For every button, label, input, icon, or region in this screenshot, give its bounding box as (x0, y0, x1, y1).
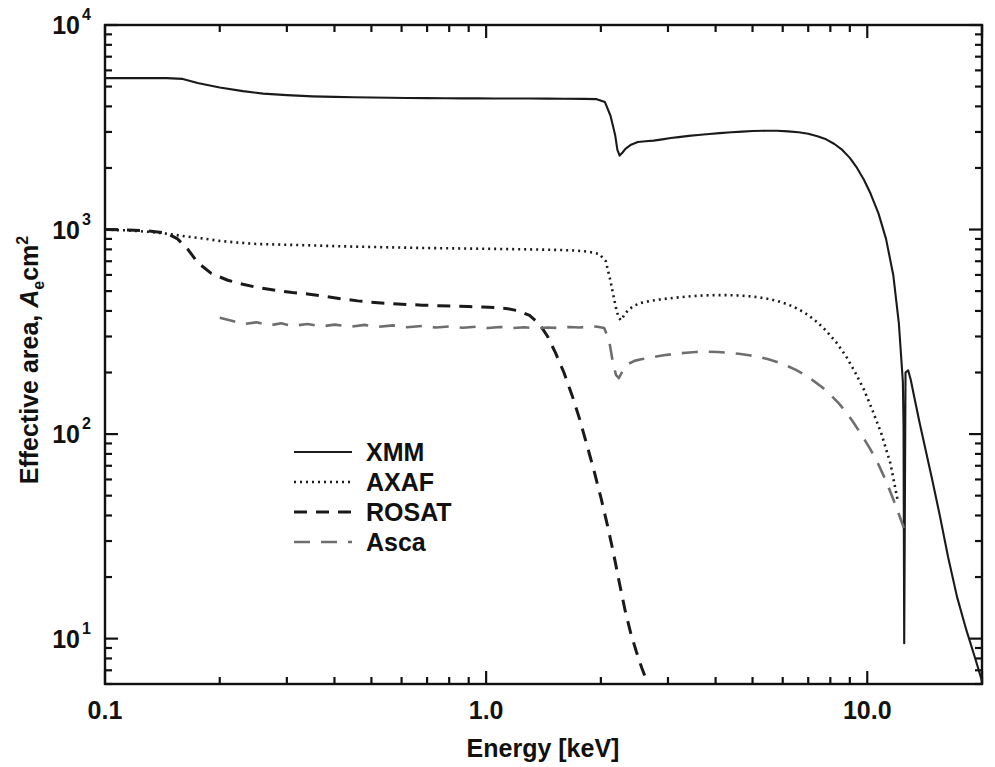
legend-label: Asca (366, 528, 427, 556)
legend-label: ROSAT (366, 498, 452, 526)
svg-text:10: 10 (52, 625, 80, 653)
svg-text:10: 10 (52, 420, 80, 448)
svg-text:10: 10 (52, 216, 80, 244)
effective-area-plot: 0.11.010.0104103102101 XMMAXAFROSATAsca … (0, 0, 995, 767)
figure-background (0, 0, 995, 767)
svg-text:Energy [keV]: Energy [keV] (467, 734, 620, 762)
svg-text:4: 4 (82, 6, 91, 23)
y-axis-title: Effective area, Aecm2 (14, 236, 47, 485)
svg-text:10: 10 (52, 11, 80, 39)
x-axis-title: Energy [keV] (467, 734, 620, 762)
svg-text:Effective area, Aecm2: Effective area, Aecm2 (14, 236, 47, 485)
legend-label: AXAF (366, 468, 434, 496)
x-tick-label: 10.0 (843, 696, 892, 724)
svg-text:2: 2 (82, 415, 91, 432)
legend-label: XMM (366, 438, 424, 466)
x-tick-label: 0.1 (88, 696, 123, 724)
chart-figure: 0.11.010.0104103102101 XMMAXAFROSATAsca … (0, 0, 995, 767)
x-tick-label: 1.0 (469, 696, 504, 724)
svg-text:3: 3 (82, 211, 91, 228)
svg-text:1: 1 (82, 620, 91, 637)
